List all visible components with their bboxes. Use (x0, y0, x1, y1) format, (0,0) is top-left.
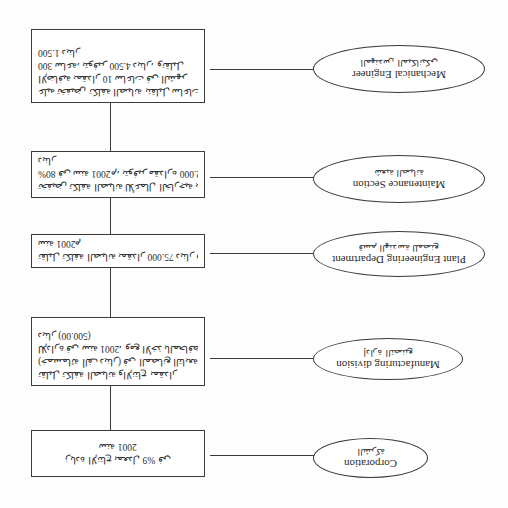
objective-line: الإضافية بمقدار 10 ساعات في الشهر (38, 72, 198, 85)
objective-box-plant-engineering: تقليل تكلفة الصيانة بمقدار 75.000 دينار … (31, 234, 205, 268)
node-label-arabic: قسم الهندسة للمصنع (359, 242, 440, 253)
objective-line: للإدارة في سنة 2001، ومع الأخذ بالمحافظة… (38, 342, 198, 355)
ellipse-corporation: Corporation الشركة (313, 438, 428, 478)
connector-manufacturing-division (210, 358, 314, 359)
node-label-arabic: الشركة (357, 446, 385, 457)
connector-plant-engineering (210, 253, 314, 254)
node-label-arabic: إدارة التصنيع (363, 347, 412, 358)
node-label-english: Manufacturing division (336, 358, 440, 371)
connector-box1-box2 (110, 103, 111, 151)
objective-line: سنة 2001م (38, 237, 198, 250)
objective-box-manufacturing-division: تقليل تكلفة الصيانة والإنتاج بمقدار (خمس… (31, 317, 205, 386)
objective-line: 1.500 دينار (38, 46, 198, 59)
objective-box-maintenance-section: تخفيض تكلفة الصيانة للأعمال الخارجية بنس… (31, 151, 205, 198)
objective-line: سنة 2001 (38, 441, 198, 454)
node-label-english: Corporation (344, 457, 397, 470)
connector-corporation (210, 455, 314, 456)
objective-line: تخفيض تكلفة الصيانة للأعمال الخارجية بنس… (38, 180, 198, 193)
ellipse-maintenance-section: Maintenance Section شعبة الصيانة (313, 155, 485, 203)
node-label-english: Maintenance Section (353, 178, 446, 191)
objective-line: زيادة الإنتاج بمعدل 9% في (38, 454, 198, 467)
connector-box4-box5 (110, 386, 111, 430)
connector-maintenance-section (210, 177, 314, 178)
objective-line: (خمسمائة ألف دينار) في المصانع التابعة (38, 355, 198, 368)
objective-line: دينار (500.00) (38, 329, 198, 342)
objective-line: عليه تخفيض تكلفة الصيانة بتقليل ساعات ال… (38, 85, 198, 98)
objective-box-corporation: زيادة الإنتاج بمعدل 9% في سنة 2001 (31, 430, 205, 477)
ellipse-manufacturing-division: Manufacturing division إدارة التصنيع (313, 338, 463, 380)
connector-box2-box3 (110, 198, 111, 234)
node-label-arabic: شعبة الصيانة (374, 167, 424, 178)
objective-box-mechanical-engineer: عليه تخفيض تكلفة الصيانة بتقليل ساعات ال… (31, 29, 205, 103)
objective-line: دينار (38, 154, 198, 167)
connector-mechanical-engineer (210, 69, 314, 70)
ellipse-mechanical-engineer: Mechanical Engineer المهندس الميكانيكي (313, 45, 485, 93)
org-objectives-diagram: عليه تخفيض تكلفة الصيانة بتقليل ساعات ال… (0, 0, 508, 508)
objective-line: 300 ساعة، بتوفير 4.500 دينار، وتقليل (38, 59, 198, 72)
objective-line: 80% في سنة 2001م، بتوفير مقداره 12.000 (38, 167, 198, 180)
connector-box3-box4 (110, 268, 111, 317)
node-label-english: Mechanical Engineer (352, 68, 446, 81)
ellipse-plant-engineering: Plant Engineering Department قسم الهندسة… (313, 231, 485, 277)
objective-line: تقليل تكلفة الصيانة والإنتاج بمقدار (38, 368, 198, 381)
node-label-english: Plant Engineering Department (332, 253, 466, 266)
node-label-arabic: المهندس الميكانيكي (360, 57, 437, 68)
objective-line: تقليل تكلفة الصيانة بمقدار 75.000 دينار … (38, 250, 198, 263)
